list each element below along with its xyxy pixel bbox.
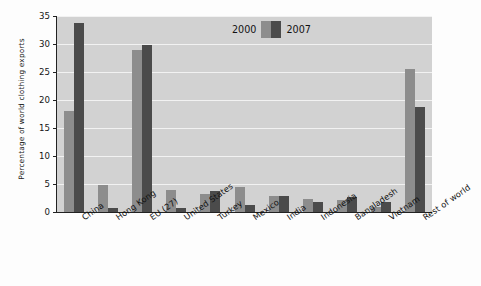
- y-axis-tick: 35: [26, 11, 57, 21]
- y-axis-tick-label: 35: [39, 12, 53, 21]
- y-axis-tick-label: 10: [39, 152, 53, 161]
- bar-2007: [74, 23, 84, 212]
- bar-2000: [64, 111, 74, 212]
- x-axis-labels: ChinaHong KongEU (27)United StatesTurkey…: [57, 214, 481, 286]
- bar-group: [64, 16, 84, 212]
- y-axis-ticks: 35302520151050: [26, 16, 57, 212]
- y-axis-tick-label: 5: [45, 180, 53, 189]
- bar-2000: [132, 50, 142, 212]
- legend-swatch-2007: [271, 21, 281, 38]
- bar-group: [98, 16, 118, 212]
- bar-group: [269, 16, 289, 212]
- y-axis-tick-label: 20: [39, 96, 53, 105]
- y-axis-tick-label: 25: [39, 68, 53, 77]
- bar-group: [166, 16, 186, 212]
- y-axis-tick: 30: [26, 39, 57, 49]
- bar-group: [337, 16, 357, 212]
- y-axis-tick-label: 15: [39, 124, 53, 133]
- bar-2000: [405, 69, 415, 212]
- y-axis-tick-label: 0: [45, 208, 53, 217]
- bar-2007: [313, 202, 323, 212]
- y-axis-tick-label: 30: [39, 40, 53, 49]
- legend-label-2007: 2007: [286, 24, 310, 35]
- bar-chart: Percentage of world clothing exports 353…: [0, 0, 481, 286]
- y-axis-tick: 15: [26, 123, 57, 133]
- y-axis-tick: 20: [26, 95, 57, 105]
- legend-label-2000: 2000: [232, 24, 256, 35]
- bar-group: [405, 16, 425, 212]
- bar-group: [132, 16, 152, 212]
- bars-layer: [57, 16, 432, 212]
- bar-group: [200, 16, 220, 212]
- bar-group: [303, 16, 323, 212]
- bar-group: [371, 16, 391, 212]
- bar-group: [235, 16, 255, 212]
- legend-swatch-2000: [261, 21, 271, 38]
- x-axis-line: [56, 212, 432, 213]
- chart-legend: 2000 2007: [232, 20, 311, 38]
- y-axis-tick: 25: [26, 67, 57, 77]
- y-axis-tick: 5: [26, 179, 57, 189]
- y-axis-tick: 0: [26, 207, 57, 217]
- y-axis-tick: 10: [26, 151, 57, 161]
